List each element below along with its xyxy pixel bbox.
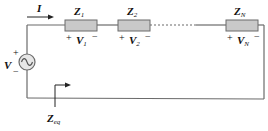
v1-minus-sign: − bbox=[92, 32, 98, 42]
vn-plus-sign: + bbox=[227, 33, 233, 43]
bottom-wire bbox=[27, 98, 264, 99]
voltage-v1-label: V1 bbox=[76, 35, 87, 48]
v2-plus-sign: + bbox=[119, 33, 125, 43]
impedance-zn-label: ZN bbox=[234, 6, 245, 19]
impedance-z1-box bbox=[65, 20, 97, 31]
source-minus-sign: − bbox=[13, 67, 19, 77]
ac-source-icon bbox=[19, 54, 35, 70]
source-plus-sign: + bbox=[13, 48, 19, 58]
source-voltage-label: V bbox=[4, 60, 11, 71]
vn-minus-sign: − bbox=[254, 32, 260, 42]
v1-plus-sign: + bbox=[66, 33, 72, 43]
voltage-v2-label: V2 bbox=[129, 35, 140, 48]
voltage-vn-label: VN bbox=[237, 35, 249, 48]
impedance-zn-box bbox=[226, 20, 258, 31]
impedance-z1-label: Z1 bbox=[74, 6, 84, 19]
impedance-z2-label: Z2 bbox=[127, 6, 137, 19]
series-circuit-diagram: I V + − Z1 + V1 − Z2 + V2 − ZN + VN − Ze… bbox=[0, 0, 268, 131]
circuit-wiring bbox=[0, 0, 268, 131]
impedance-z2-box bbox=[118, 20, 150, 31]
current-label: I bbox=[37, 3, 41, 14]
zeq-arrow-icon bbox=[55, 83, 71, 108]
zeq-label: Zeq bbox=[47, 113, 60, 126]
current-arrow-icon bbox=[27, 15, 54, 20]
v2-minus-sign: − bbox=[145, 32, 151, 42]
